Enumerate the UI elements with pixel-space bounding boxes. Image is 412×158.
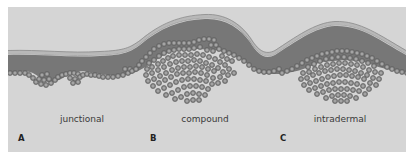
panel-c-label: intradermal [314, 114, 367, 124]
panel-b-label: compound [181, 114, 229, 124]
panel-a-label: junctional [60, 114, 104, 124]
panel-a-letter: A [18, 133, 25, 143]
nevus-types-diagram [0, 0, 412, 158]
panel-c-letter: C [280, 133, 286, 143]
panel-b-letter: B [150, 133, 156, 143]
